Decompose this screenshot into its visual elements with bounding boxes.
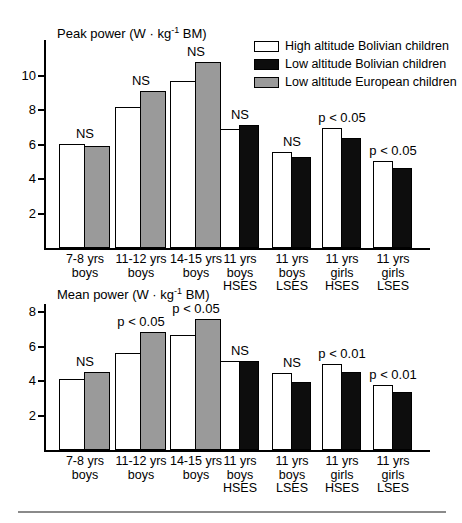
legend-label: High altitude Bolivian children [285,39,449,53]
y-axis-tick [38,346,44,348]
bar-high-altitude-bolivian [59,379,85,450]
y-axis-line [44,304,46,452]
bar-low-altitude-bolivian [341,372,361,450]
y-axis-tick-label: 4 [10,374,36,388]
bar-high-altitude-bolivian [170,335,196,450]
y-axis-tick-label: 8 [10,305,36,319]
legend-label: Low altitude European children [285,75,457,89]
legend-item: High altitude Bolivian children [254,39,457,53]
category-label: 7-8 yrs boys [53,455,117,482]
category-label: 11 yrs girls LSES [361,455,425,496]
legend-item: Low altitude Bolivian children [254,57,457,71]
y-axis-tick-label: 6 [10,340,36,354]
chart-title-text: Mean power (W · kg [57,287,174,302]
chart-title-text: BM) [182,287,209,302]
significance-label: p < 0.05 [151,301,241,316]
chart-title: Mean power (W · kg-1 BM) [57,286,210,302]
bar-chart-figure: Peak power (W · kg-1 BM)246810NS7-8 yrs … [0,0,462,523]
chart-title-superscript: -1 [174,286,182,296]
significance-label: p < 0.05 [96,314,186,329]
bar-high-altitude-bolivian [220,361,240,450]
significance-label: p < 0.01 [297,346,387,361]
legend-swatch [254,77,279,88]
y-axis-tick [38,311,44,313]
bar-low-altitude-bolivian [291,382,311,450]
bar-high-altitude-bolivian [373,385,393,450]
legend-item: Low altitude European children [254,75,457,89]
bar-low-altitude-bolivian [239,361,259,450]
bar-high-altitude-bolivian [272,373,292,450]
y-axis-tick [38,415,44,417]
y-axis-tick-label: 2 [10,409,36,423]
bar-low-altitude-bolivian [392,392,412,450]
bar-high-altitude-bolivian [115,353,141,450]
bottom-divider-line [18,511,446,513]
legend: High altitude Bolivian childrenLow altit… [254,39,457,93]
bar-low-altitude-european [140,332,166,450]
y-axis-tick [38,380,44,382]
significance-label: p < 0.01 [348,367,438,382]
bar-low-altitude-european [84,372,110,450]
bar-low-altitude-european [195,319,221,450]
bar-high-altitude-bolivian [322,364,342,450]
legend-swatch [254,41,279,52]
legend-swatch [254,59,279,70]
legend-label: Low altitude Bolivian children [285,57,446,71]
x-axis-line [44,450,430,452]
